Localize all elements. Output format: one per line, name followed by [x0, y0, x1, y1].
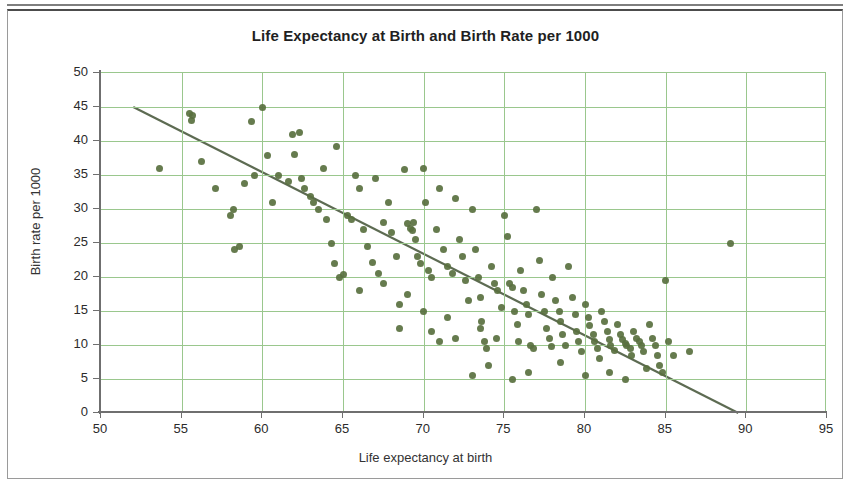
data-point	[259, 104, 266, 111]
y-axis-tick	[93, 174, 100, 175]
data-point	[475, 274, 482, 281]
data-point	[433, 226, 440, 233]
data-point	[556, 308, 563, 315]
y-axis-tick	[93, 242, 100, 243]
data-point	[569, 294, 576, 301]
data-point	[385, 199, 392, 206]
data-point	[328, 240, 335, 247]
data-point	[440, 246, 447, 253]
data-point	[483, 345, 490, 352]
data-point	[654, 352, 661, 359]
gridline-horizontal	[101, 379, 825, 380]
x-axis-tick	[665, 412, 666, 418]
data-point	[340, 271, 347, 278]
data-point	[509, 376, 516, 383]
gridline-vertical	[746, 73, 747, 411]
data-point	[380, 219, 387, 226]
gridline-vertical	[182, 73, 183, 411]
data-point	[514, 321, 521, 328]
data-point	[493, 335, 500, 342]
x-axis-tick	[826, 412, 827, 418]
y-axis-tick-label: 20	[54, 268, 88, 283]
y-axis-tick-label: 35	[54, 166, 88, 181]
data-point	[356, 185, 363, 192]
x-axis-tick-label: 60	[241, 421, 281, 436]
data-point	[393, 253, 400, 260]
gridline-horizontal	[101, 243, 825, 244]
data-point	[572, 311, 579, 318]
data-point	[422, 199, 429, 206]
x-axis-tick	[423, 412, 424, 418]
data-point	[372, 175, 379, 182]
gridline-horizontal	[101, 141, 825, 142]
data-point	[477, 294, 484, 301]
x-axis-tick	[584, 412, 585, 418]
gridline-vertical	[424, 73, 425, 411]
data-point	[536, 257, 543, 264]
data-point	[549, 274, 556, 281]
data-point	[533, 206, 540, 213]
data-point	[320, 165, 327, 172]
data-point	[498, 304, 505, 311]
plot-area	[100, 72, 826, 412]
gridline-vertical	[262, 73, 263, 411]
data-point	[156, 165, 163, 172]
y-axis-tick-label: 10	[54, 336, 88, 351]
y-axis-tick	[93, 310, 100, 311]
data-point	[627, 345, 634, 352]
x-axis-line	[98, 411, 827, 413]
data-point	[511, 308, 518, 315]
data-point	[727, 240, 734, 247]
data-point	[598, 308, 605, 315]
gridline-vertical	[343, 73, 344, 411]
data-point	[356, 287, 363, 294]
data-point	[548, 343, 555, 350]
y-axis-title: Birth rate per 1000	[28, 127, 43, 317]
data-point	[230, 206, 237, 213]
data-point	[562, 342, 569, 349]
y-axis-tick-label: 30	[54, 200, 88, 215]
data-point	[333, 143, 340, 150]
y-axis-tick	[93, 378, 100, 379]
x-axis-tick	[503, 412, 504, 418]
data-point	[420, 308, 427, 315]
data-point	[456, 236, 463, 243]
data-point	[462, 277, 469, 284]
y-axis-tick	[93, 106, 100, 107]
y-axis-tick-label: 0	[54, 404, 88, 419]
data-point	[298, 175, 305, 182]
y-axis-tick	[93, 72, 100, 73]
data-point	[546, 335, 553, 342]
data-point	[401, 166, 408, 173]
data-point	[477, 325, 484, 332]
gridline-horizontal	[101, 107, 825, 108]
x-axis-tick-label: 90	[725, 421, 765, 436]
data-point	[425, 267, 432, 274]
data-point	[530, 345, 537, 352]
data-point	[606, 369, 613, 376]
data-point	[396, 325, 403, 332]
x-axis-title: Life expectancy at birth	[0, 450, 851, 465]
data-point	[348, 216, 355, 223]
data-point	[543, 325, 550, 332]
data-point	[525, 369, 532, 376]
x-axis-tick	[342, 412, 343, 418]
data-point	[428, 274, 435, 281]
data-point	[582, 301, 589, 308]
data-point	[352, 172, 359, 179]
data-point	[509, 284, 516, 291]
scanned-chart-page: Life Expectancy at Birth and Birth Rate …	[0, 0, 851, 485]
data-point	[557, 318, 564, 325]
data-point	[614, 321, 621, 328]
x-axis-tick	[745, 412, 746, 418]
data-point	[301, 185, 308, 192]
data-point	[469, 372, 476, 379]
data-point	[198, 158, 205, 165]
gridline-vertical	[666, 73, 667, 411]
gridline-vertical	[585, 73, 586, 411]
y-axis-tick	[93, 208, 100, 209]
chart-title: Life Expectancy at Birth and Birth Rate …	[0, 27, 851, 44]
data-point	[538, 291, 545, 298]
data-point	[557, 359, 564, 366]
data-point	[622, 376, 629, 383]
